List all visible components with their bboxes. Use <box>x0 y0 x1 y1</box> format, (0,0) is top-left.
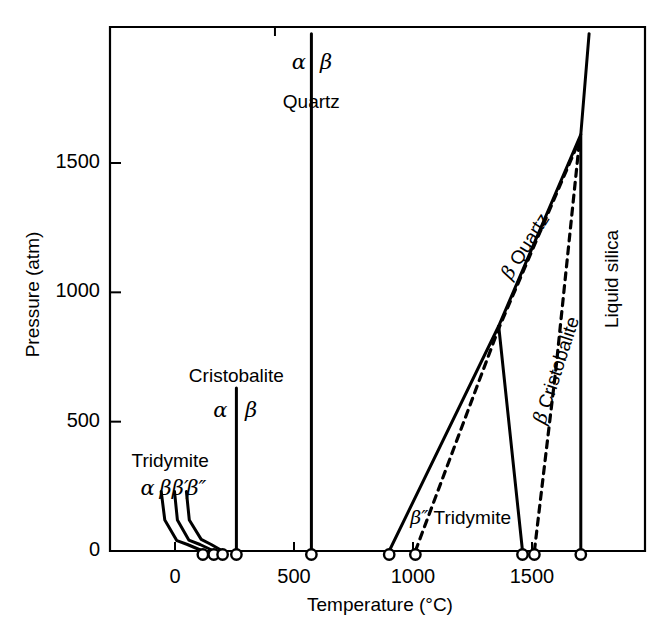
axis-marker <box>410 549 420 559</box>
x-axis-title: Temperature (°C) <box>230 595 530 614</box>
annotation-cristobalite-name: Cristobalite <box>189 366 284 385</box>
y-tick-label: 1500 <box>12 151 100 171</box>
annotation-tridymite-alpha: α <box>141 477 155 498</box>
y-tick-label: 500 <box>12 410 100 430</box>
annotation-tridymite-name: Tridymite <box>132 451 209 470</box>
axis-marker <box>576 549 586 559</box>
axis-marker <box>217 549 227 559</box>
axis-marker <box>306 549 316 559</box>
series-liquid-silica-boundary <box>581 34 589 551</box>
axis-marker <box>529 549 539 559</box>
axis-marker <box>384 549 394 559</box>
x-tick-label: 0 <box>135 566 215 586</box>
annotation-quartz-name: Quartz <box>283 91 340 110</box>
annotation-tridymite-beta: β <box>159 477 171 498</box>
axis-marker <box>517 549 527 559</box>
annotation-tridymite-beta-dprime: β″ <box>186 477 206 498</box>
annotation-cristobalite-alpha: α <box>213 400 227 421</box>
annotation-liquid-silica-field: Liquid silica <box>601 230 620 328</box>
x-tick-label: 1500 <box>492 566 572 586</box>
annotation-cristobalite-beta: β <box>245 400 257 421</box>
x-tick-label: 500 <box>254 566 334 586</box>
axis-marker <box>198 549 208 559</box>
phase-diagram-figure: Pressure (atm) Temperature (°C) 05001000… <box>0 0 665 630</box>
y-tick-label: 1000 <box>12 280 100 300</box>
series-beta-quartz-liquidus <box>389 135 581 552</box>
annotation-beta-dprime-tridymite-field: β″ Tridymite <box>410 508 511 527</box>
annotation-quartz-beta: β <box>320 52 332 73</box>
x-tick-label: 1000 <box>373 566 453 586</box>
annotation-quartz-alpha: α <box>292 52 306 73</box>
axis-marker <box>231 549 241 559</box>
y-tick-label: 0 <box>12 539 100 559</box>
